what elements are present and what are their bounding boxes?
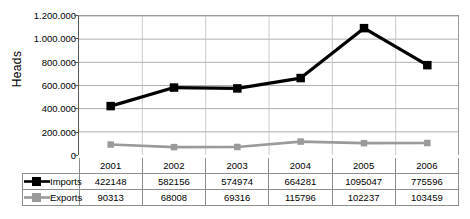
table-cell: 1095047 bbox=[332, 174, 395, 190]
table-header-cell: 2004 bbox=[269, 158, 332, 174]
figure-chart-with-data-table: Heads 1.200.000 1.000.000 800.000 600.00… bbox=[0, 0, 470, 219]
table-cell: 102237 bbox=[332, 190, 395, 206]
legend-cell-imports: Imports bbox=[23, 174, 80, 190]
table-header-cell: 2002 bbox=[142, 158, 205, 174]
table-cell: 90313 bbox=[79, 190, 142, 206]
legend-marker-imports-icon bbox=[24, 176, 50, 187]
table-cell: 69316 bbox=[206, 190, 269, 206]
series-canvas bbox=[79, 16, 459, 155]
table-row-header: 2001 2002 2003 2004 2005 2006 bbox=[23, 158, 459, 174]
y-tick-label: 1.000.000 bbox=[14, 33, 76, 44]
y-axis-tick-labels: 1.200.000 1.000.000 800.000 600.000 400.… bbox=[10, 0, 76, 160]
data-table: 2001 2002 2003 2004 2005 2006 Imports bbox=[22, 158, 459, 206]
table-cell: 422148 bbox=[79, 174, 142, 190]
table-cell: 664281 bbox=[269, 174, 332, 190]
legend-cell-exports: Exports bbox=[23, 190, 80, 206]
table-header-cell: 2005 bbox=[332, 158, 395, 174]
table-header-cell: 2003 bbox=[206, 158, 269, 174]
table-header-cell: 2006 bbox=[395, 158, 458, 174]
legend-label-imports: Imports bbox=[50, 176, 82, 187]
plot-region bbox=[78, 15, 459, 155]
table-cell: 582156 bbox=[142, 174, 205, 190]
y-tick-label: 600.000 bbox=[14, 80, 76, 91]
y-tick-label: 400.000 bbox=[14, 103, 76, 114]
legend-header-spacer bbox=[23, 158, 80, 174]
table-cell: 103459 bbox=[395, 190, 458, 206]
y-tick-label: 200.000 bbox=[14, 127, 76, 138]
table-row-exports: Exports 90313 68008 69316 115796 102237 … bbox=[23, 190, 459, 206]
table-cell: 68008 bbox=[142, 190, 205, 206]
table-cell: 574974 bbox=[206, 174, 269, 190]
y-tick-label: 1.200.000 bbox=[14, 10, 76, 21]
legend-label-exports: Exports bbox=[50, 192, 82, 203]
y-tick-label: 800.000 bbox=[14, 57, 76, 68]
table-cell: 775596 bbox=[395, 174, 458, 190]
chart-area: Heads 1.200.000 1.000.000 800.000 600.00… bbox=[0, 0, 470, 160]
figure-caption bbox=[3, 208, 463, 219]
legend-marker-exports-icon bbox=[24, 192, 50, 203]
y-axis-tick-mark bbox=[74, 155, 78, 156]
table-cell: 115796 bbox=[269, 190, 332, 206]
table-header-cell: 2001 bbox=[79, 158, 142, 174]
table-row-imports: Imports 422148 582156 574974 664281 1095… bbox=[23, 174, 459, 190]
